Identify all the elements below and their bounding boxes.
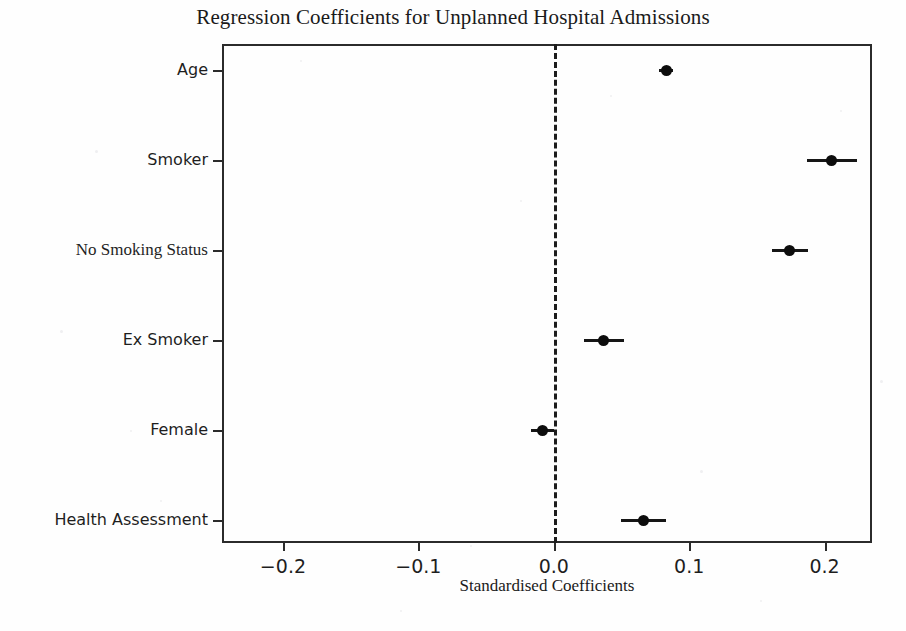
x-axis-tick-label: 0.2 (809, 555, 839, 577)
paper-speckle (470, 545, 472, 547)
y-axis-tick (213, 250, 222, 252)
x-axis-title: Standardised Coefficients (222, 576, 872, 596)
data-point (598, 335, 609, 346)
x-axis-tick-label: 0.0 (539, 555, 569, 577)
data-point (638, 515, 649, 526)
x-axis-tick (418, 543, 420, 551)
x-axis-tick-label: 0.1 (674, 555, 704, 577)
plot-area: −0.2−0.10.00.10.2 (222, 44, 872, 543)
y-axis-tick (213, 70, 222, 72)
y-axis-tick-label: No Smoking Status (0, 241, 208, 258)
paper-speckle (160, 500, 162, 502)
y-axis-tick (213, 160, 222, 162)
x-axis-tick (689, 543, 691, 551)
x-axis-tick (554, 543, 556, 551)
x-axis-tick-label: −0.2 (260, 555, 306, 577)
x-axis-tick (283, 543, 285, 551)
y-axis-tick-label: Female (0, 421, 208, 438)
data-point (784, 245, 795, 256)
y-axis-tick-label: Smoker (0, 151, 208, 168)
zero-reference-line (554, 44, 557, 543)
y-axis-tick-label: Age (0, 61, 208, 78)
y-axis-tick (213, 520, 222, 522)
paper-speckle (760, 600, 762, 602)
y-axis-tick (213, 430, 222, 432)
x-axis-tick-label: −0.1 (395, 555, 441, 577)
data-point (661, 65, 672, 76)
data-point (826, 155, 837, 166)
chart-page: Regression Coefficients for Unplanned Ho… (0, 0, 906, 631)
paper-speckle (880, 380, 883, 383)
y-axis-tick-label: Health Assessment (0, 511, 208, 528)
y-axis-tick-label: Ex Smoker (0, 331, 208, 348)
x-axis-tick (825, 543, 827, 551)
y-axis-tick (213, 340, 222, 342)
paper-speckle (400, 610, 402, 612)
data-point (537, 425, 548, 436)
page-title: Regression Coefficients for Unplanned Ho… (0, 5, 906, 30)
